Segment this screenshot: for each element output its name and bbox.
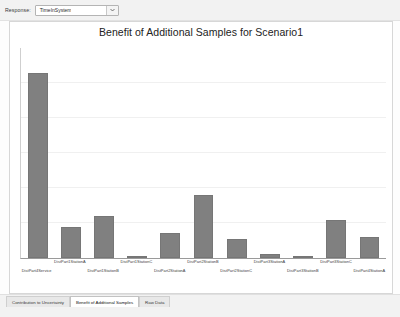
x-axis-label: DistPart1StationB: [87, 268, 120, 273]
x-axis-label: DistPart2StationC: [220, 268, 253, 273]
x-axis-label: DistPart4StationA: [353, 268, 386, 273]
x-axis-label: DistPart3StationA: [253, 259, 286, 264]
bar-slot: [87, 48, 120, 258]
bar[interactable]: [160, 233, 180, 258]
x-axis-label: DistPart4Service: [20, 268, 53, 273]
response-dropdown[interactable]: TimeInSystem: [35, 5, 119, 16]
tab-benefit-of-additional-samples[interactable]: Benefit of Additional Samples: [70, 296, 139, 307]
bar-slot: [220, 48, 253, 258]
x-axis-label: DistPart1StationC: [120, 259, 153, 264]
plot-area: [20, 48, 386, 259]
bar[interactable]: [293, 256, 313, 258]
bar-slot: [187, 48, 220, 258]
bar[interactable]: [127, 256, 147, 258]
application-window: Response: TimeInSystem Benefit of Additi…: [0, 0, 400, 317]
tab-raw-data[interactable]: Raw Data: [139, 296, 170, 307]
bar-slot: [253, 48, 286, 258]
x-axis-label: DistPart3StationB: [286, 268, 319, 273]
bar-slot: [54, 48, 87, 258]
bar-slot: [121, 48, 154, 258]
bar[interactable]: [227, 239, 247, 258]
bar-slot: [353, 48, 386, 258]
bar[interactable]: [194, 195, 214, 258]
x-axis-label: DistPart3StationC: [319, 259, 352, 264]
bar[interactable]: [260, 254, 280, 258]
chart-title: Benefit of Additional Samples for Scenar…: [10, 26, 392, 38]
chevron-down-icon[interactable]: [106, 6, 118, 15]
bar[interactable]: [28, 73, 48, 258]
chart-panel: Benefit of Additional Samples for Scenar…: [9, 21, 393, 294]
bar[interactable]: [61, 227, 81, 259]
tab-bar: Contribution to UncertaintyBenefit of Ad…: [0, 294, 400, 317]
x-axis-label: DistPart2StationB: [186, 259, 219, 264]
x-axis-label: DistPart2StationA: [153, 268, 186, 273]
x-axis-label-row-top: DistPart4ServiceDistPart1StationADistPar…: [20, 259, 386, 264]
tab-contribution-to-uncertainty[interactable]: Contribution to Uncertainty: [6, 296, 70, 307]
bar-slot: [154, 48, 187, 258]
bar[interactable]: [360, 237, 380, 258]
bar-series: [21, 48, 386, 258]
bar[interactable]: [94, 216, 114, 258]
toolbar: Response: TimeInSystem: [0, 0, 400, 21]
bar[interactable]: [326, 220, 346, 258]
bar-slot: [21, 48, 54, 258]
bar-slot: [287, 48, 320, 258]
x-axis-labels: DistPart4ServiceDistPart1StationADistPar…: [20, 259, 386, 287]
response-label: Response:: [5, 7, 31, 13]
x-axis-label: DistPart1StationA: [53, 259, 86, 264]
x-axis-label-row-bottom: DistPart4ServiceDistPart1StationADistPar…: [20, 268, 386, 273]
response-dropdown-value: TimeInSystem: [36, 7, 72, 13]
bar-slot: [320, 48, 353, 258]
